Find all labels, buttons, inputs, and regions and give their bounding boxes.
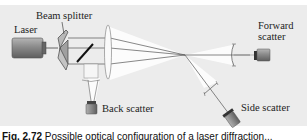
forward-scatter-label-line2: scatter — [258, 31, 285, 42]
main-lens-icon — [105, 25, 112, 79]
forward-scatter-detector-icon — [254, 49, 270, 61]
caption-prefix: Fig. 2.72 — [2, 131, 42, 140]
side-scatter-label: Side scatter — [241, 102, 290, 113]
mirror-icon — [77, 44, 93, 62]
side-scatter-detector-icon — [222, 108, 241, 128]
back-scatter-detector-icon — [86, 101, 97, 114]
laser-icon — [12, 38, 46, 58]
figure-caption: Fig. 2.72 Possible optical configuration… — [2, 131, 273, 140]
beam-splitter-label: Beam splitter — [36, 10, 92, 21]
forward-scatter-label-line1: Forward — [258, 20, 294, 31]
back-scatter-label: Back scatter — [102, 103, 154, 114]
beam-splitter-icon — [58, 22, 68, 70]
caption-text: Possible optical configuration of a lase… — [45, 131, 273, 140]
laser-label: Laser — [14, 24, 37, 35]
